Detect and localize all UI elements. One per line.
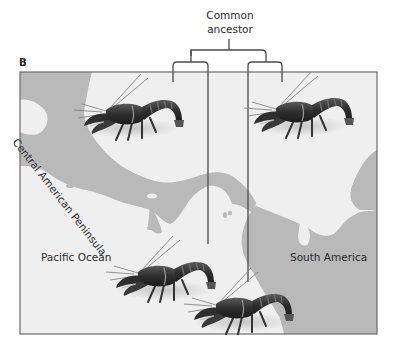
south-america-label: South America <box>290 251 367 263</box>
common-ancestor-label: Common ancestor <box>196 8 264 36</box>
map-and-tree-graphic <box>0 0 397 354</box>
panel-label: B <box>19 57 27 68</box>
common-ancestor-line2: ancestor <box>196 22 264 36</box>
pacific-ocean-label: Pacific Ocean <box>41 251 111 263</box>
common-ancestor-line1: Common <box>196 8 264 22</box>
speciation-diagram: Common ancestor B Central American Penin… <box>0 0 397 354</box>
